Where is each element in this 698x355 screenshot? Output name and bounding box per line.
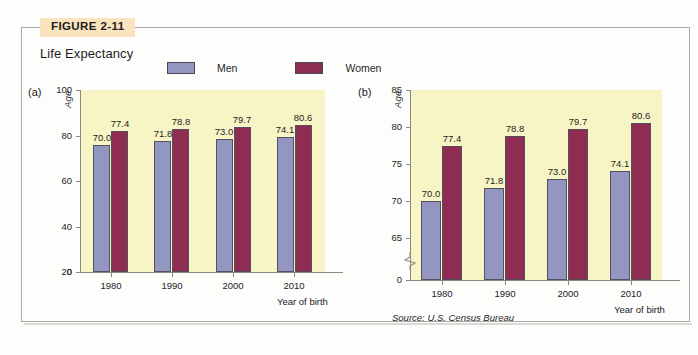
y-axis-tick (76, 136, 81, 137)
bar-value-label: 78.8 (501, 123, 529, 134)
y-axis-tick (406, 90, 411, 91)
bar-men-2000 (547, 179, 567, 280)
bar-men-2000 (216, 139, 233, 272)
y-axis-tick (76, 181, 81, 182)
x-axis-tick (568, 280, 569, 285)
x-axis-category-label: 1990 (485, 288, 525, 299)
legend-item-women: Women (295, 62, 381, 74)
y-axis-tick (76, 272, 81, 273)
legend-item-men: Men (167, 62, 237, 74)
bar-women-2010 (631, 123, 651, 280)
bar-value-label: 80.6 (627, 110, 655, 121)
x-axis-line (410, 280, 680, 281)
figure-box-shadow (24, 323, 692, 325)
x-axis-tick (631, 280, 632, 285)
x-axis-tick (294, 272, 295, 277)
legend-label-women: Women (345, 62, 381, 74)
x-axis-category-label: 1990 (152, 280, 192, 291)
legend-label-men: Men (217, 62, 237, 74)
x-axis-category-label: 1980 (422, 288, 462, 299)
y-axis-tick-label: 70 (370, 195, 402, 206)
y-axis-tick (406, 280, 411, 281)
x-axis-tick (442, 280, 443, 285)
y-axis-tick-label: 100 (40, 84, 72, 95)
chart-legend: Men Women (167, 62, 381, 74)
y-axis-tick-label: 60 (40, 175, 72, 186)
y-axis-tick-label: 0 (370, 274, 402, 285)
x-axis-tick (233, 272, 234, 277)
figure-title: Life Expectancy (40, 46, 133, 61)
y-axis-tick (406, 164, 411, 165)
y-axis-tick (406, 201, 411, 202)
x-axis-category-label: 2010 (611, 288, 651, 299)
bar-women-2010 (295, 125, 312, 272)
x-axis-tick (172, 272, 173, 277)
bar-value-label: 74.1 (606, 158, 634, 169)
bar-value-label: 70.0 (417, 188, 445, 199)
figure-number-badge: FIGURE 2-11 (40, 18, 135, 37)
y-axis-tick (406, 238, 411, 239)
bar-men-1990 (484, 188, 504, 280)
figure-root: FIGURE 2-11 Life Expectancy Men Women (a… (0, 0, 698, 355)
y-axis-tick (76, 227, 81, 228)
bar-women-1980 (442, 146, 462, 280)
legend-swatch-men-icon (167, 62, 195, 74)
bar-men-1980 (93, 145, 110, 272)
x-axis-category-label: 2000 (213, 280, 253, 291)
x-axis-category-label: 2000 (548, 288, 588, 299)
bar-value-label: 80.6 (289, 112, 317, 123)
y-axis-tick-label: 75 (370, 158, 402, 169)
x-axis-tick (505, 280, 506, 285)
bar-value-label: 79.7 (228, 114, 256, 125)
x-axis-title: Year of birth (614, 304, 665, 315)
bar-women-2000 (234, 127, 251, 272)
y-axis-break-icon (404, 252, 416, 268)
legend-swatch-women-icon (295, 62, 323, 74)
y-axis-tick-label: 40 (40, 221, 72, 232)
bar-men-1990 (154, 141, 171, 272)
y-axis-tick-label: 80 (40, 130, 72, 141)
y-axis-tick-label: 20 (40, 266, 72, 277)
y-axis-tick-label: 80 (370, 121, 402, 132)
x-axis-title: Year of birth (277, 296, 328, 307)
y-axis-tick-label: 65 (370, 232, 402, 243)
bar-men-1980 (421, 201, 441, 280)
bar-women-2000 (568, 129, 588, 280)
x-axis-line (80, 272, 343, 273)
bar-value-label: 77.4 (438, 133, 466, 144)
x-axis-category-label: 1980 (91, 280, 131, 291)
y-axis-tick-label: 85 (370, 84, 402, 95)
bar-women-1980 (111, 131, 128, 272)
bar-value-label: 73.0 (543, 166, 571, 177)
bar-value-label: 71.8 (480, 175, 508, 186)
bar-women-1990 (172, 129, 189, 272)
bar-women-1990 (505, 136, 525, 280)
y-axis-tick (406, 127, 411, 128)
bar-men-2010 (610, 171, 630, 280)
bar-men-2010 (277, 137, 294, 272)
bar-value-label: 79.7 (564, 116, 592, 127)
x-axis-tick (111, 272, 112, 277)
y-axis-tick (76, 90, 81, 91)
bar-value-label: 77.4 (106, 118, 134, 129)
source-note: Source: U.S. Census Bureau (392, 312, 514, 323)
bar-value-label: 78.8 (167, 116, 195, 127)
x-axis-category-label: 2010 (274, 280, 314, 291)
